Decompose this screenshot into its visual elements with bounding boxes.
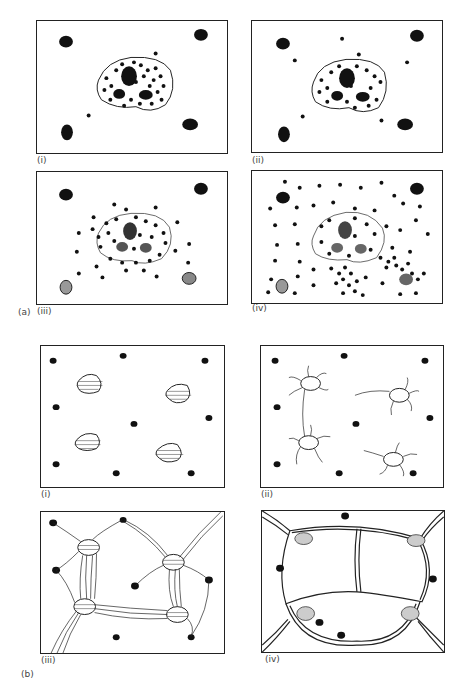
panel-a-ii-label: (ii) xyxy=(252,155,264,165)
mast-cell-early-release-drawing xyxy=(252,21,442,152)
panel-a-ii xyxy=(251,20,443,153)
panel-a-i xyxy=(36,20,228,154)
part-a-label: (a) xyxy=(18,307,31,317)
panel-b-iv-label: (iv) xyxy=(265,654,280,664)
panel-b-iii-label: (iii) xyxy=(41,655,56,665)
panel-a-iii xyxy=(36,171,228,305)
panel-a-iii-label: (iii) xyxy=(37,306,52,316)
cells-extending-processes-drawing xyxy=(261,346,443,487)
panel-a-iv-label: (iv) xyxy=(252,303,267,313)
panel-b-ii-label: (ii) xyxy=(261,489,273,499)
panel-b-i-label: (i) xyxy=(41,489,51,499)
cells-connecting-drawing xyxy=(41,512,224,653)
panel-b-iv xyxy=(261,510,445,653)
panel-b-i xyxy=(40,345,225,488)
separate-cells-drawing xyxy=(41,346,224,487)
part-b-label: (b) xyxy=(21,669,34,679)
mast-cell-intact-drawing xyxy=(37,21,227,153)
panel-a-i-label: (i) xyxy=(37,155,47,165)
dense-network-drawing xyxy=(262,511,444,652)
panel-a-iv xyxy=(251,170,443,304)
panel-b-iii xyxy=(40,511,225,654)
mast-cell-extensive-degranulation-drawing xyxy=(252,171,442,303)
mast-cell-dispersing-drawing xyxy=(37,172,227,304)
panel-b-ii xyxy=(260,345,444,488)
